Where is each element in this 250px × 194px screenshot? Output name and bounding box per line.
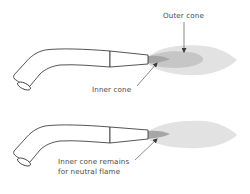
neutral-inner-cone-arrow [135, 139, 157, 160]
torch-nozzle [110, 51, 148, 67]
inner-cone-arrow [137, 63, 157, 86]
outer-cone-label: Outer cone [163, 11, 204, 20]
top-panel [14, 22, 237, 92]
inner-cone-remains-label-line1: Inner cone remains [58, 157, 129, 166]
torch-nozzle [110, 127, 148, 143]
inner-cone-label: Inner cone [92, 85, 131, 94]
inner-cone-remains-label-line2: for neutral flame [58, 167, 120, 176]
torch-handle [14, 49, 110, 87]
